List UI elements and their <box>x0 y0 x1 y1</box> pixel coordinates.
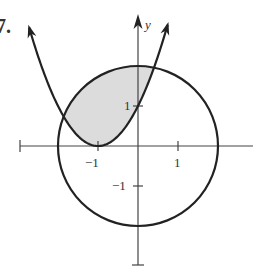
y-axis: y <box>132 14 151 265</box>
svg-text:−1: −1 <box>112 178 126 193</box>
problem-number: 7. <box>0 15 11 37</box>
svg-text:1: 1 <box>174 155 181 170</box>
y-axis-label: y <box>143 17 151 32</box>
x-tick-1: 1 <box>174 141 181 170</box>
diagram: 7. y −1 1 1 −1 <box>0 0 253 267</box>
svg-text:−1: −1 <box>85 155 99 170</box>
svg-text:1: 1 <box>124 98 131 113</box>
